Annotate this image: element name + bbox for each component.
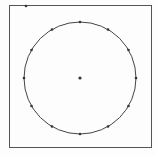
circumference-point <box>23 77 26 80</box>
circumference-point <box>30 49 33 52</box>
circle-diagram <box>0 0 156 156</box>
diagram-canvas <box>0 0 156 156</box>
circumference-point <box>107 28 110 31</box>
center-point <box>78 76 81 79</box>
circumference-point <box>51 28 54 31</box>
circumference-point <box>51 125 54 128</box>
circumference-point <box>79 21 82 24</box>
circumference-point <box>107 125 110 128</box>
circumference-point <box>127 49 130 52</box>
corner-marker <box>25 5 28 8</box>
circumference-point <box>30 105 33 108</box>
circumference-point <box>79 133 82 136</box>
circumference-point <box>127 105 130 108</box>
circumference-point <box>135 77 138 80</box>
